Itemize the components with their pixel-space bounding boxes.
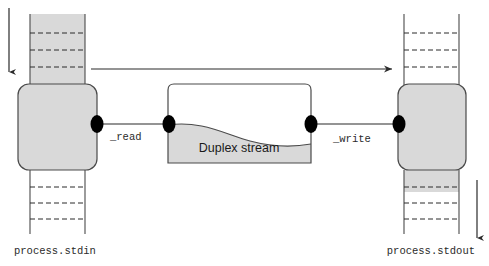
stdout-process-box — [398, 84, 466, 170]
stdout-caption: process.stdout — [387, 245, 475, 257]
write-source-connector-icon — [305, 115, 318, 133]
write-edge-label: _write — [332, 133, 371, 145]
stdin-caption: process.stdin — [14, 245, 96, 257]
read-target-connector-icon — [163, 115, 176, 133]
write-target-connector-icon — [393, 115, 406, 133]
read-source-connector-icon — [91, 115, 104, 133]
stdin-buffer-top — [30, 14, 85, 85]
duplex-stream-label: Duplex stream — [199, 141, 280, 155]
stdin-process-box — [18, 84, 97, 170]
stdin-buffer-bottom — [30, 170, 85, 234]
read-edge-label: _read — [109, 131, 142, 143]
diagram-canvas: Duplex stream _read _write process.stdin… — [0, 0, 489, 266]
stdout-buffer-bottom — [404, 170, 459, 234]
stdout-buffer-top — [404, 14, 459, 85]
duplex-stream-box: Duplex stream — [168, 84, 311, 165]
duplex-stream-diagram: Duplex stream _read _write process.stdin… — [0, 0, 489, 266]
